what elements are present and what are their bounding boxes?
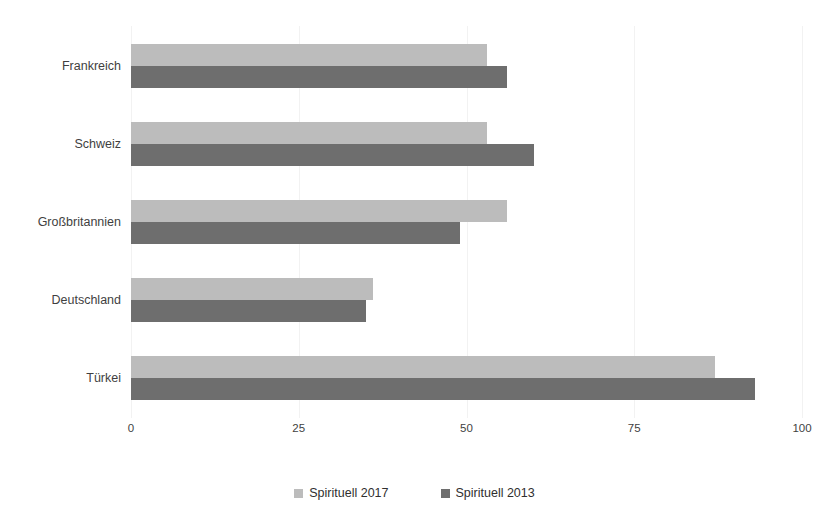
category-label-3: Deutschland — [0, 293, 121, 307]
bar-group — [131, 104, 802, 182]
legend-swatch-icon-0 — [294, 489, 303, 498]
bar-0 — [131, 356, 715, 378]
bar-1 — [131, 66, 507, 88]
category-label-4: Türkei — [0, 371, 121, 385]
x-tick-label-50: 50 — [437, 420, 497, 436]
bar-0 — [131, 44, 487, 66]
bar-group — [131, 26, 802, 104]
bar-1 — [131, 378, 755, 400]
bar-group — [131, 182, 802, 260]
chart-legend: Spirituell 2017Spirituell 2013 — [0, 482, 829, 504]
x-tick-label-25: 25 — [269, 420, 329, 436]
x-axis-tick-labels: 0255075100 — [0, 420, 829, 442]
bar-group — [131, 338, 802, 416]
category-label-1: Schweiz — [0, 137, 121, 151]
x-tick-label-0: 0 — [101, 420, 161, 436]
legend-label-1: Spirituell 2013 — [456, 486, 535, 501]
category-label-0: Frankreich — [0, 59, 121, 73]
x-tick-label-100: 100 — [772, 420, 829, 436]
category-label-2: Großbritannien — [0, 215, 121, 229]
bar-chart: 0255075100 Spirituell 2017Spirituell 201… — [0, 0, 829, 524]
bar-0 — [131, 200, 507, 222]
x-tick-label-75: 75 — [604, 420, 664, 436]
legend-item-0[interactable]: Spirituell 2017 — [294, 486, 388, 501]
bar-1 — [131, 144, 534, 166]
bar-1 — [131, 300, 366, 322]
plot-area — [131, 26, 802, 418]
bar-1 — [131, 222, 460, 244]
bar-0 — [131, 122, 487, 144]
legend-item-1[interactable]: Spirituell 2013 — [441, 486, 535, 501]
legend-label-0: Spirituell 2017 — [309, 486, 388, 501]
chart-title-remnant — [0, 0, 829, 14]
legend-swatch-icon-1 — [441, 489, 450, 498]
bar-0 — [131, 278, 373, 300]
gridline-x-100 — [802, 26, 803, 418]
bar-group — [131, 260, 802, 338]
